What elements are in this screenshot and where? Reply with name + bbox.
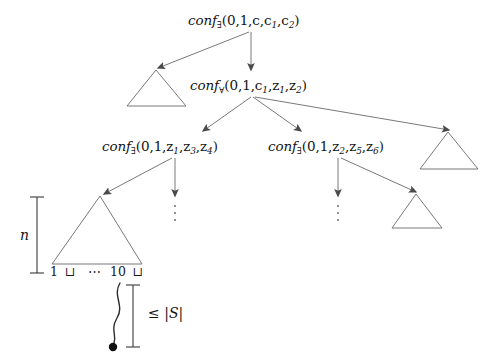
edge-root-to-left-triangle: [158, 32, 249, 68]
subtree-triangle-lower-right: [392, 194, 442, 228]
tape-contents: 1⊔⋯10⊔: [50, 266, 143, 279]
head-pointer-dot: [109, 343, 117, 351]
subtree-triangle-right: [420, 132, 478, 169]
head-pointer-curve: [114, 283, 120, 343]
vertical-ellipsis-right: [336, 205, 340, 221]
edge-forall-to-right-triangle: [255, 97, 449, 130]
conf-exists-right-label: conf∃(0,1,z2,z5,z6): [268, 140, 384, 156]
tape-ellipsis: ⋯: [88, 266, 103, 279]
tree-edges-and-shapes: [0, 0, 483, 360]
edge-forall-to-left-exists: [203, 97, 251, 131]
length-measure-s-bracket: [126, 285, 140, 347]
edge-forall-to-right-exists: [253, 97, 301, 131]
length-measure-s-label: ≤ |S|: [148, 306, 183, 320]
vertical-ellipsis-left: [173, 205, 177, 221]
tape-cell-0: 1: [50, 266, 58, 279]
edge-right-exists-to-lower-triangle: [341, 158, 416, 192]
subtree-triangle-main: [52, 196, 142, 264]
tape-cell-1: ⊔: [65, 266, 75, 279]
conf-exists-left-label: conf∃(0,1,z1,z3,z4): [102, 140, 218, 156]
edge-left-exists-to-main-triangle: [104, 158, 172, 194]
height-measure-n-bracket: [30, 197, 44, 273]
subtree-triangle-upper-left: [127, 70, 186, 106]
conf-forall-label: conf∀(0,1,c1,z1,z2): [190, 79, 307, 95]
height-measure-n-label: n: [20, 228, 29, 242]
conf-exists-root-label: conf∃(0,1,c,c1,c2): [188, 14, 300, 30]
tape-cell-5: ⊔: [133, 266, 143, 279]
tape-cell-3: 1: [110, 266, 118, 279]
computation-tree-figure: conf∃(0,1,c,c1,c2) conf∀(0,1,c1,z1,z2) c…: [0, 0, 483, 360]
tape-cell-4: 0: [118, 266, 126, 279]
